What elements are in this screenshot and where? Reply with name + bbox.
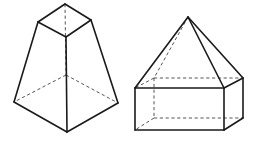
- pyramid-on-prism-hidden-edge-0: [154, 17, 188, 78]
- pyramid-on-prism-hidden-edge-4: [135, 118, 154, 130]
- square-frustum-edge-2: [38, 22, 66, 37]
- pyramid-on-prism-edge-9: [224, 118, 243, 130]
- geometry-illustration: [0, 0, 257, 143]
- pyramid-on-prism-edge-4: [224, 78, 243, 88]
- square-frustum-edge-0: [38, 4, 65, 22]
- square-frustum-hidden-edge-1: [14, 75, 66, 102]
- pyramid-on-prism-edge-1: [188, 17, 224, 88]
- figure-canvas: [0, 0, 257, 143]
- square-frustum-edge-8: [67, 103, 118, 132]
- square-frustum-edge-6: [66, 37, 67, 132]
- figure-square-frustum: [14, 4, 118, 132]
- figure-pyramid-on-prism: [135, 17, 243, 130]
- square-frustum-edge-4: [14, 22, 38, 102]
- pyramid-on-prism-edge-0: [135, 17, 188, 88]
- square-frustum-edge-3: [66, 20, 91, 37]
- square-frustum-edge-7: [14, 102, 67, 132]
- square-frustum-edge-1: [65, 4, 91, 20]
- pyramid-on-prism-edge-2: [188, 17, 243, 78]
- square-frustum-edge-5: [91, 20, 118, 103]
